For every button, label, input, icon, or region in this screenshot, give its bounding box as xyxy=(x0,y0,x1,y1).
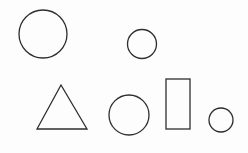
shapes-canvas xyxy=(0,0,248,153)
small-circle-bottom xyxy=(209,108,233,132)
small-circle-top xyxy=(128,30,157,59)
rectangle xyxy=(166,79,190,129)
large-circle xyxy=(19,10,67,58)
worksheet-page xyxy=(0,0,248,153)
medium-circle xyxy=(109,95,149,135)
triangle xyxy=(37,85,87,129)
